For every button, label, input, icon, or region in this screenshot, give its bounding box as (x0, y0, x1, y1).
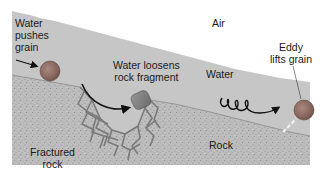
water-label: Water (206, 68, 234, 80)
lifted-grain (294, 100, 314, 120)
fractured-rock-label: Fractured rock (30, 146, 75, 170)
rock-label: Rock (209, 139, 233, 151)
eddy-lifts-grain-label: Eddy lifts grain (270, 41, 312, 65)
erosion-diagram: Air Water pushes grain Water loosens roc… (0, 0, 327, 191)
water-loosens-fragment-label: Water loosens rock fragment (113, 59, 180, 83)
pushed-grain (40, 61, 60, 81)
water-pushes-grain-label: Water pushes grain (15, 17, 49, 53)
air-label: Air (212, 17, 225, 29)
